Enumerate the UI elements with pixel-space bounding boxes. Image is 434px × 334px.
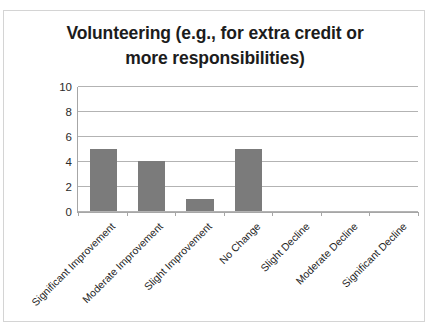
- bar-slot: [370, 87, 418, 211]
- plot-region: 0246810: [77, 87, 418, 213]
- chart-frame: Volunteering (e.g., for extra credit or …: [3, 10, 425, 322]
- plot-area: 0246810: [77, 87, 418, 213]
- bar-slot: [176, 87, 224, 211]
- bar: [186, 199, 213, 211]
- bar-slot: [224, 87, 272, 211]
- bar: [90, 149, 117, 211]
- chart-title-line-2: more responsibilities): [4, 46, 426, 71]
- x-axis-category-labels: Significant ImprovementModerate Improvem…: [78, 214, 419, 329]
- y-tick-label-4: 4: [32, 156, 72, 168]
- y-tick-label-0: 0: [32, 206, 72, 218]
- x-axis-label: Moderate Improvement: [80, 220, 165, 305]
- bar: [138, 161, 165, 211]
- bar-series: [79, 87, 418, 211]
- y-tick-label-8: 8: [32, 106, 72, 118]
- bar-slot: [273, 87, 321, 211]
- chart-title-line-1: Volunteering (e.g., for extra credit or: [4, 21, 426, 46]
- bar: [235, 149, 262, 211]
- x-axis-label: Slight Decline: [258, 220, 312, 274]
- x-axis-label: Significant Improvement: [29, 220, 117, 308]
- bar-slot: [321, 87, 369, 211]
- chart-title: Volunteering (e.g., for extra credit or …: [4, 21, 426, 71]
- bar-slot: [127, 87, 175, 211]
- gridline-0: [78, 211, 418, 212]
- y-tick-label-2: 2: [32, 181, 72, 193]
- bar-slot: [79, 87, 127, 211]
- y-tick-label-10: 10: [32, 81, 72, 93]
- y-tick-label-6: 6: [32, 131, 72, 143]
- x-axis-label: No Change: [217, 220, 263, 266]
